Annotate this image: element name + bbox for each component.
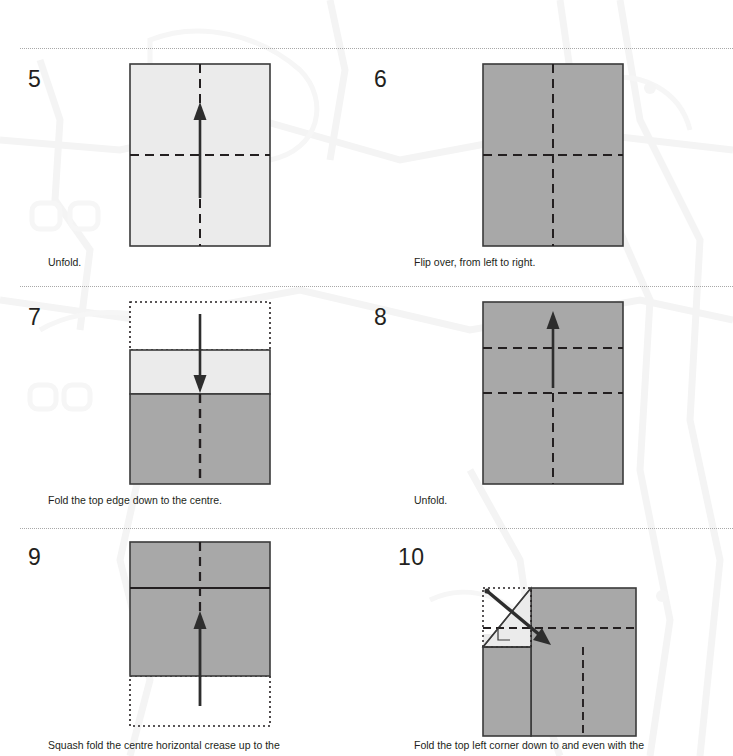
step-caption-9: Squash fold the centre horizontal crease… <box>48 738 280 752</box>
step-number-6: 6 <box>374 68 387 91</box>
step-panel-10: 10 <box>366 528 733 756</box>
step-number-5: 5 <box>28 68 41 91</box>
step-figure-5 <box>118 58 298 268</box>
step-caption-7: Fold the top edge down to the centre. <box>48 493 222 507</box>
step-number-7: 7 <box>28 306 41 329</box>
step-panel-9: 9 Squash fold the centre horizontal crea… <box>0 528 366 756</box>
step-panel-5: 5 Unfold. <box>0 48 366 286</box>
step-panel-7: 7 Fold the top edge down to the centre. <box>0 286 366 528</box>
step-number-9: 9 <box>28 546 41 569</box>
step-number-10: 10 <box>398 546 425 569</box>
step-caption-5: Unfold. <box>48 255 81 269</box>
step-panel-6: 6 Flip over, from left to right. <box>366 48 733 286</box>
step-figure-6 <box>471 58 651 268</box>
step-caption-8: Unfold. <box>414 493 447 507</box>
step-figure-9 <box>118 536 298 736</box>
step-number-8: 8 <box>374 306 387 329</box>
step-caption-10: Fold the top left corner down to and eve… <box>414 738 644 752</box>
step-caption-6: Flip over, from left to right. <box>414 255 535 269</box>
step-figure-10 <box>471 568 671 748</box>
step-figure-7 <box>118 296 298 506</box>
step-figure-8 <box>471 296 651 506</box>
step-panel-8: 8 Unfold. <box>366 286 733 528</box>
